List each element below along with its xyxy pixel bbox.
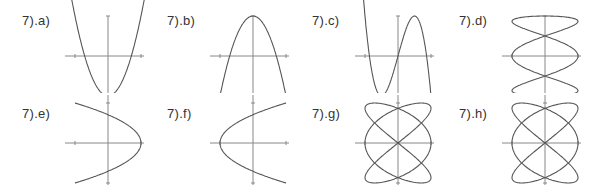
graph-label: 7).b)	[167, 13, 195, 28]
graph-label: 7).g)	[312, 106, 340, 121]
graph-panel-b: 7).b)	[145, 0, 295, 93]
graph-panel-f: 7).f)	[145, 93, 295, 186]
graph-label: 7).d)	[459, 13, 487, 28]
graph-label: 7).a)	[22, 13, 50, 28]
graph-panel-c: 7).c)	[290, 0, 440, 93]
graph-label: 7).e)	[22, 106, 50, 121]
graph-label: 7).c)	[312, 13, 340, 28]
graph-panel-a: 7).a)	[0, 0, 150, 93]
graph-label: 7).h)	[459, 106, 487, 121]
graph-panel-d: 7).d)	[437, 0, 587, 93]
graph-panel-e: 7).e)	[0, 93, 150, 186]
graph-panel-h: 7).h)	[437, 93, 587, 186]
graph-label: 7).f)	[167, 106, 192, 121]
graph-panel-g: 7).g)	[290, 93, 440, 186]
